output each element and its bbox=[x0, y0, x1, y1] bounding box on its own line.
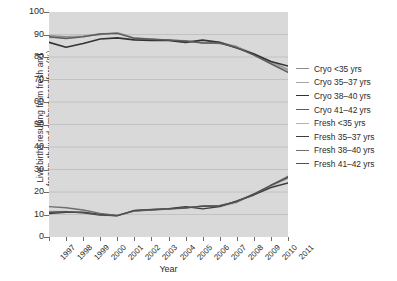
chart-figure: Live births resulting from fresh and fro… bbox=[0, 0, 397, 281]
x-tick-mark bbox=[220, 237, 221, 241]
legend-swatch-5 bbox=[296, 136, 309, 137]
x-tick-mark bbox=[288, 237, 289, 241]
y-tick-label: 90 bbox=[4, 29, 44, 39]
y-tick-label: 40 bbox=[4, 141, 44, 151]
x-tick-label: 2004 bbox=[178, 243, 197, 262]
legend-label-7: Fresh 41–42 yrs bbox=[314, 159, 375, 169]
y-tick-label: 70 bbox=[4, 74, 44, 84]
x-tick-mark bbox=[49, 237, 50, 241]
x-tick-label: 2007 bbox=[229, 243, 248, 262]
x-tick-label: 1998 bbox=[75, 243, 94, 262]
x-tick-label: 2005 bbox=[195, 243, 214, 262]
x-tick-label: 2008 bbox=[246, 243, 265, 262]
legend-item-3: Cryo 41–42 yrs bbox=[296, 103, 396, 117]
x-tick-label: 2002 bbox=[144, 243, 163, 262]
x-tick-label: 2003 bbox=[161, 243, 180, 262]
x-tick-label: 2006 bbox=[212, 243, 231, 262]
x-tick-mark bbox=[169, 237, 170, 241]
legend-label-0: Cryo <35 yrs bbox=[314, 64, 362, 74]
legend-label-4: Fresh <35 yrs bbox=[314, 118, 365, 128]
y-tick-label: 50 bbox=[4, 119, 44, 129]
x-tick-label: 2010 bbox=[280, 243, 299, 262]
x-tick-mark bbox=[151, 237, 152, 241]
y-tick-label: 60 bbox=[4, 96, 44, 106]
y-tick-label: 0 bbox=[4, 231, 44, 241]
legend-label-3: Cryo 41–42 yrs bbox=[314, 105, 371, 115]
x-tick-label: 2001 bbox=[127, 243, 146, 262]
x-tick-label: 2011 bbox=[297, 243, 316, 262]
x-tick-mark bbox=[186, 237, 187, 241]
legend-label-6: Fresh 38–40 yrs bbox=[314, 145, 375, 155]
legend-item-4: Fresh <35 yrs bbox=[296, 116, 396, 130]
y-tick-label: 30 bbox=[4, 164, 44, 174]
y-tick-label: 20 bbox=[4, 186, 44, 196]
x-tick-mark bbox=[254, 237, 255, 241]
x-tick-label: 1999 bbox=[92, 243, 111, 262]
y-tick-label: 100 bbox=[4, 6, 44, 16]
legend-item-5: Fresh 35–37 yrs bbox=[296, 130, 396, 144]
legend-item-7: Fresh 41–42 yrs bbox=[296, 157, 396, 171]
legend-item-6: Fresh 38–40 yrs bbox=[296, 144, 396, 158]
legend-label-1: Cryo 35–37 yrs bbox=[314, 77, 371, 87]
x-tick-mark bbox=[237, 237, 238, 241]
x-tick-mark bbox=[134, 237, 135, 241]
legend-swatch-7 bbox=[296, 163, 309, 164]
series-lines bbox=[49, 12, 288, 237]
legend-swatch-2 bbox=[296, 95, 309, 96]
plot-area bbox=[49, 12, 288, 237]
x-tick-mark bbox=[83, 237, 84, 241]
x-tick-mark bbox=[271, 237, 272, 241]
legend-item-2: Cryo 38–40 yrs bbox=[296, 89, 396, 103]
legend-swatch-1 bbox=[296, 82, 309, 83]
series-line-1 bbox=[49, 33, 288, 70]
series-line-0 bbox=[49, 33, 288, 70]
legend-swatch-0 bbox=[296, 68, 309, 69]
legend-item-1: Cryo 35–37 yrs bbox=[296, 76, 396, 90]
legend-item-0: Cryo <35 yrs bbox=[296, 62, 396, 76]
y-tick-label: 80 bbox=[4, 51, 44, 61]
x-tick-mark bbox=[100, 237, 101, 241]
legend-label-2: Cryo 38–40 yrs bbox=[314, 91, 371, 101]
x-tick-mark bbox=[117, 237, 118, 241]
x-axis-title: Year bbox=[49, 264, 288, 274]
legend-swatch-4 bbox=[296, 123, 309, 124]
legend-swatch-6 bbox=[296, 150, 309, 151]
x-tick-label: 1997 bbox=[58, 243, 77, 262]
x-tick-label: 2009 bbox=[263, 243, 282, 262]
chart-legend: Cryo <35 yrsCryo 35–37 yrsCryo 38–40 yrs… bbox=[296, 62, 396, 171]
legend-swatch-3 bbox=[296, 109, 309, 110]
x-tick-mark bbox=[203, 237, 204, 241]
x-tick-mark bbox=[66, 237, 67, 241]
legend-label-5: Fresh 35–37 yrs bbox=[314, 132, 375, 142]
x-tick-label: 2000 bbox=[109, 243, 128, 262]
series-line-2 bbox=[49, 38, 288, 66]
y-tick-label: 10 bbox=[4, 209, 44, 219]
